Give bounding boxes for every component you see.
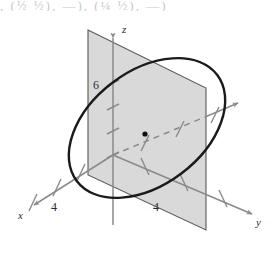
x-axis xyxy=(29,155,113,211)
y-tick-mark xyxy=(219,190,227,207)
x-tick-label-4: 4 xyxy=(51,200,57,214)
x-tick-mark xyxy=(29,194,37,211)
x-tick-mark xyxy=(77,164,85,181)
x-tick-mark xyxy=(53,179,61,196)
y-back-tick-mark xyxy=(211,107,219,123)
y-axis-label: y xyxy=(255,216,261,228)
z-axis-label: z xyxy=(121,23,127,35)
z-tick-label-6: 6 xyxy=(93,78,99,92)
x-axis-label: x xyxy=(17,209,23,221)
center-dot xyxy=(142,131,147,136)
figure-container: , (½ ½), —), (¼ ½), —) xyxy=(0,0,274,265)
y-tick-label-4: 4 xyxy=(153,200,159,214)
coordinate-system-figure: z x y 6 4 4 xyxy=(0,0,274,265)
